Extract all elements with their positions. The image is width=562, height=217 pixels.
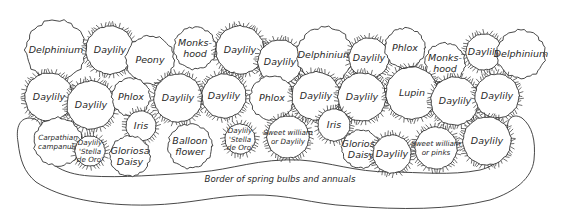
plant-label: Daylily	[353, 52, 386, 63]
plant-label: flower	[175, 146, 206, 157]
plant-group: DelphiniumDaylilyPeonyMonks-hoodDaylilyD…	[21, 20, 549, 178]
plant-label: Balloon	[172, 135, 207, 146]
plant-label: Daylily	[75, 99, 108, 110]
plant-label: Phlox	[118, 91, 144, 102]
plant-label: Delphinium	[29, 44, 83, 55]
garden-plan-diagram: Border of spring bulbs and annuals Delph…	[0, 0, 562, 217]
plant-label: de Oro'	[227, 143, 253, 152]
plant-label: Lupin	[399, 87, 425, 98]
plant-label: or Daylily	[271, 137, 306, 146]
plant-label: Daylily	[33, 91, 66, 102]
plant-label: hood	[433, 63, 458, 74]
plant-label: or pinks	[422, 148, 451, 157]
plant-phlox: Phlox	[385, 27, 426, 69]
plant-label: Daylily	[224, 44, 257, 55]
plant-label: Gloriosa	[111, 145, 150, 156]
plant-daylily-stella-de-oro: Daylily'Stellade Oro'	[220, 120, 260, 159]
plant-label: Iris	[327, 119, 341, 130]
plant-label: Iris	[134, 120, 148, 131]
border-label: Border of spring bulbs and annuals	[205, 174, 356, 184]
plant-label: Monks-	[178, 37, 212, 48]
plant-label: Daylily	[264, 56, 297, 67]
plant-label: Daisy	[117, 156, 144, 167]
plant-label: Peony	[135, 54, 164, 65]
plant-sweet-william-or-pinks: Sweet williamor pinks	[411, 123, 462, 174]
plant-monks-hood: Monks-hood	[174, 27, 217, 70]
plant-label: Phlox	[259, 92, 285, 103]
plant-balloon-flower: Balloonflower	[168, 124, 213, 169]
plant-label: Daylily	[94, 44, 127, 55]
plant-label: Daylily	[346, 91, 379, 102]
plant-label: Daylily	[481, 90, 514, 101]
plant-delphinium: Delphinium	[24, 20, 87, 81]
plant-label: de Oro'	[77, 155, 103, 164]
plant-daylily: Daylily	[458, 113, 515, 170]
plant-label: Delphinium	[298, 49, 352, 60]
plant-gloriosa-daisy: GloriosaDaisy	[109, 136, 151, 177]
plant-label: Daylily	[471, 135, 504, 146]
plant-label: Daylily	[208, 90, 241, 101]
plant-label: Daylily	[439, 95, 472, 106]
plant-label: Monks-	[428, 52, 462, 63]
plant-label: Daylily	[300, 90, 333, 101]
plant-label: Delphinium	[494, 48, 548, 59]
plant-label: Daylily	[162, 92, 195, 103]
plant-label: Daylily	[376, 148, 409, 159]
plant-label: hood	[183, 48, 208, 59]
plant-label: Phlox	[392, 42, 418, 53]
